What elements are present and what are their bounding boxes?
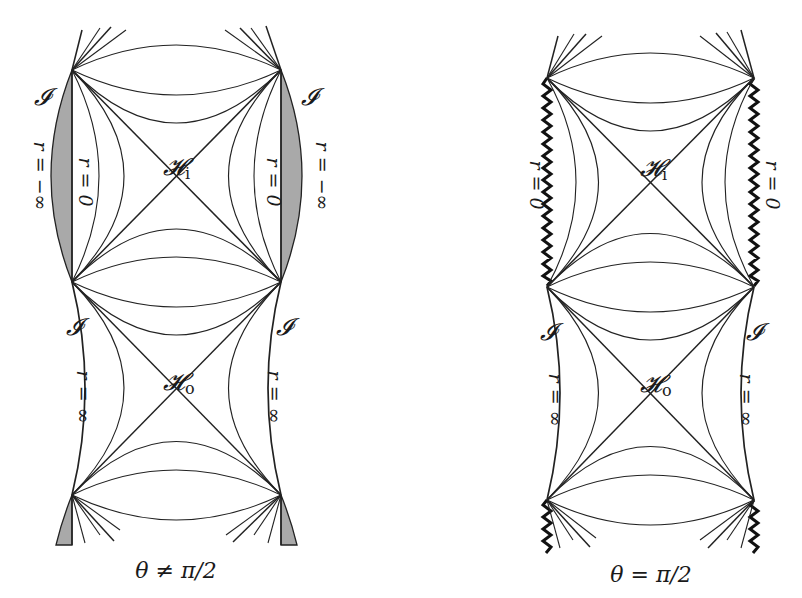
top-left-fan [72,27,126,70]
right-penrose-diagram: 𝓘 𝓘 𝓗i 𝓗o r = 0 r = 0 r = ∞ r = ∞ θ = π/… [526,30,784,587]
top-left-fan-2 [547,34,602,78]
outer-horizon-block-2 [547,287,754,525]
r-inf-label-left-2: r = ∞ [545,374,567,427]
r-inf-label-left: r = ∞ [73,371,95,424]
shaded-region-bottom-right [281,495,297,545]
scri-label-bottom-right-2: 𝓘 [746,318,770,346]
bottom-left-fan-2 [547,500,596,548]
r-neg-inf-label-left: r = −∞ [30,142,52,211]
r-zero-label-right-2: r = 0 [762,160,784,209]
caption-right: θ = π/2 [610,562,692,587]
horizon-outer-label-2: 𝓗o [640,370,672,400]
scri-label-bottom-left: 𝓘 [66,313,90,341]
r-zero-label-left: r = 0 [75,157,97,206]
horizon-inner-label: 𝓗i [163,153,194,183]
r-inf-label-right: r = ∞ [264,371,286,424]
r-zero-label-right: r = 0 [263,157,285,206]
r-zero-label-left-2: r = 0 [526,160,548,209]
shaded-region-bottom-left [56,495,72,545]
shaded-region-left [51,70,72,282]
horizon-outer-label: 𝓗o [163,368,195,398]
scri-label-top-left: 𝓘 [34,83,58,111]
scri-label-bottom-right: 𝓘 [276,313,300,341]
bottom-left-fan [72,495,120,543]
scri-label-top-right: 𝓘 [301,83,325,111]
horizon-inner-label-2: 𝓗i [640,154,671,184]
top-right-fan-2 [700,30,754,78]
penrose-figure: 𝓘 𝓘 𝓘 𝓘 𝓗i 𝓗o r = −∞ r = 0 r = 0 r = −∞ … [0,0,802,598]
caption-left: θ ≠ π/2 [135,558,217,583]
bottom-right-fan [226,495,281,543]
singularity-right [750,78,758,286]
singularity-bottom-left [543,500,551,553]
r-inf-label-right-2: r = ∞ [736,374,758,427]
r-neg-inf-label-right: r = −∞ [312,142,334,211]
singularity-bottom-right [750,500,758,553]
top-right-fan [225,26,281,70]
outer-horizon-block [72,282,281,520]
bottom-right-fan-2 [700,500,754,548]
scri-label-bottom-left-2: 𝓘 [540,318,564,346]
left-penrose-diagram: 𝓘 𝓘 𝓘 𝓘 𝓗i 𝓗o r = −∞ r = 0 r = 0 r = −∞ … [30,26,334,583]
